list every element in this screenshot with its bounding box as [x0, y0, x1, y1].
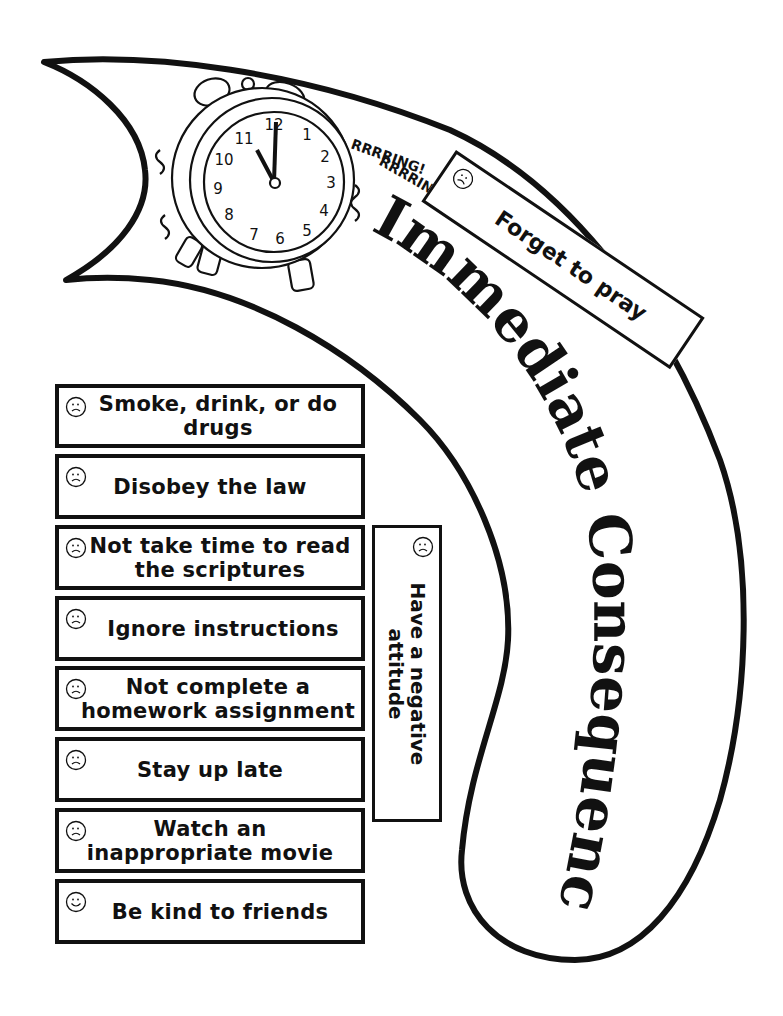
svg-text:12: 12	[264, 116, 283, 134]
sad-face-icon	[65, 466, 87, 488]
card-item: Ignore instructions	[55, 596, 365, 661]
card-item: Not complete a homework assignment	[55, 666, 365, 731]
happy-face-icon	[65, 891, 87, 913]
sad-face-icon	[65, 678, 87, 700]
svg-text:11: 11	[234, 130, 253, 148]
sad-face-icon	[65, 820, 87, 842]
svg-text:4: 4	[319, 202, 329, 220]
card-item: Smoke, drink, or do drugs	[55, 384, 365, 448]
svg-text:3: 3	[326, 174, 336, 192]
svg-text:1: 1	[302, 126, 312, 144]
card-item: Not take time to read the scriptures	[55, 525, 365, 590]
card-label: Ignore instructions	[81, 617, 338, 641]
svg-text:8: 8	[224, 206, 234, 224]
sad-face-icon	[65, 749, 87, 771]
card-item: Watch an inappropriate movie	[55, 808, 365, 873]
svg-text:6: 6	[275, 230, 285, 248]
card-label: Have a negative attitude	[385, 554, 429, 794]
sad-face-icon	[65, 608, 87, 630]
svg-text:5: 5	[302, 222, 312, 240]
sad-face-icon	[65, 537, 87, 559]
card-item: Disobey the law	[55, 454, 365, 519]
card-label: Stay up late	[137, 758, 283, 782]
card-label: Be kind to friends	[92, 900, 329, 924]
card-label: Disobey the law	[113, 475, 307, 499]
card-label: Not take time to read the scriptures	[59, 534, 361, 582]
svg-text:9: 9	[213, 180, 223, 198]
svg-text:7: 7	[249, 226, 259, 244]
sad-face-icon	[65, 396, 87, 418]
worksheet-page: 12 1 2 3 4 5 6 7 8 9 10 11 RRRRING! RRRR…	[0, 0, 783, 1016]
card-negative-attitude: Have a negative attitude	[372, 525, 442, 822]
card-item: Be kind to friends	[55, 879, 365, 944]
svg-text:10: 10	[214, 151, 233, 169]
card-label: Watch an inappropriate movie	[59, 817, 361, 865]
svg-text:2: 2	[320, 148, 330, 166]
sad-face-icon	[448, 164, 479, 195]
card-label: Smoke, drink, or do drugs	[59, 392, 361, 440]
card-item: Stay up late	[55, 737, 365, 802]
card-label: Not complete a homework assignment	[59, 675, 361, 723]
